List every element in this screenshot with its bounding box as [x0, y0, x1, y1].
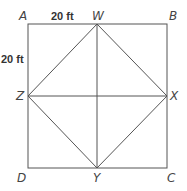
vertex-label-w: W — [92, 9, 105, 23]
vertex-label-z: Z — [15, 89, 25, 103]
vertex-label-d: D — [17, 171, 26, 185]
geometry-diagram: A W B Z X D Y C 20 ft 20 ft — [0, 0, 187, 191]
vertex-label-x: X — [169, 89, 179, 103]
dimension-top: 20 ft — [51, 10, 74, 22]
vertex-label-y: Y — [93, 171, 102, 185]
vertex-label-b: B — [169, 9, 177, 23]
dimension-left: 20 ft — [1, 53, 24, 65]
vertex-label-c: C — [167, 171, 176, 185]
vertex-label-a: A — [18, 9, 27, 23]
